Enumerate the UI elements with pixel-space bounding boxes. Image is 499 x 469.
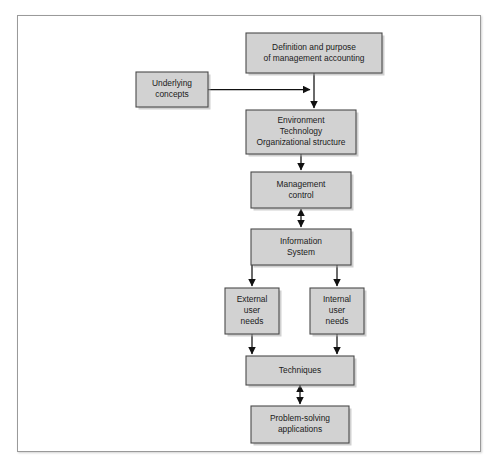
node-label: needs	[326, 316, 349, 326]
flowchart-canvas: Definition and purposeof management acco…	[18, 16, 482, 453]
node-information-system[interactable]: InformationSystem	[251, 229, 354, 268]
node-label: Organizational structure	[257, 137, 346, 147]
figure-frame: Definition and purposeof management acco…	[17, 15, 481, 452]
node-label: Definition and purpose	[272, 42, 356, 52]
node-label: user	[329, 305, 346, 315]
node-label: applications	[278, 424, 322, 434]
node-problem-solving[interactable]: Problem-solvingapplications	[251, 406, 352, 446]
node-label: Environment	[277, 115, 325, 125]
node-environment[interactable]: EnvironmentTechnologyOrganizational stru…	[246, 110, 359, 157]
node-label: needs	[241, 316, 264, 326]
node-label: control	[288, 190, 313, 200]
node-label: Technology	[280, 126, 323, 136]
node-underlying[interactable]: Underlyingconcepts	[136, 72, 211, 110]
node-label: Management	[277, 179, 327, 189]
node-label: user	[244, 305, 261, 315]
node-label: Techniques	[279, 365, 321, 375]
node-label: Underlying	[152, 78, 192, 88]
node-label: Information	[280, 236, 322, 246]
node-internal-user-needs[interactable]: Internaluserneeds	[310, 288, 367, 337]
node-label: External	[237, 294, 268, 304]
node-layer: Definition and purposeof management acco…	[136, 33, 385, 446]
node-techniques[interactable]: Techniques	[246, 356, 357, 388]
node-label: of management accounting	[263, 53, 364, 63]
node-label: Problem-solving	[270, 413, 330, 423]
node-management-control[interactable]: Managementcontrol	[251, 172, 354, 211]
node-label: Internal	[323, 294, 351, 304]
node-label: concepts	[155, 89, 189, 99]
node-definition[interactable]: Definition and purposeof management acco…	[246, 33, 385, 76]
node-external-user-needs[interactable]: Externaluserneeds	[225, 288, 282, 337]
node-label: System	[287, 247, 315, 257]
